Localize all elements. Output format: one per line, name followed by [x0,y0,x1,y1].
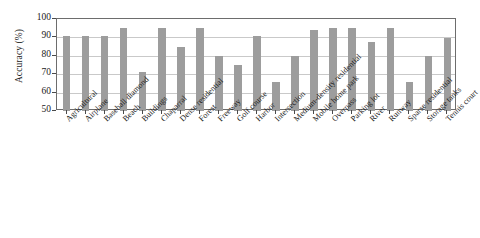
x-axis-tick [123,110,124,114]
bar [101,36,109,111]
x-axis-tick [275,110,276,114]
bar [177,47,185,111]
x-axis-tick [408,110,409,114]
y-axis-tick-label: 60 [21,87,51,97]
bar [120,28,128,111]
bar [253,36,261,111]
x-axis-tick [313,110,314,114]
bar [310,30,318,111]
bar-series [57,19,455,109]
x-axis-tick [180,110,181,114]
x-axis-tick [370,110,371,114]
bar [425,56,433,111]
bar [63,36,71,111]
bar [215,56,223,111]
x-axis-tick [199,110,200,114]
x-axis-tick [85,110,86,114]
y-axis-tick-label: 70 [21,68,51,78]
bar [234,65,242,111]
y-axis-tick [52,110,56,111]
bar [272,82,280,111]
x-axis-tick [218,110,219,114]
bar [387,28,395,111]
bar [291,56,299,111]
x-axis-tick [446,110,447,114]
x-axis-tick [104,110,105,114]
bar [406,82,414,111]
y-axis-tick-label: 80 [21,50,51,60]
plot-area [56,18,456,110]
bar [196,28,204,111]
y-axis-tick-label: 90 [21,31,51,41]
x-axis-tick [256,110,257,114]
x-axis-tick [389,110,390,114]
x-axis-tick [332,110,333,114]
bar [329,28,337,111]
bar [158,28,166,111]
bar [368,42,376,111]
x-axis-tick [161,110,162,114]
x-axis-tick [237,110,238,114]
bar [139,72,147,111]
x-axis-tick [142,110,143,114]
bar [82,36,90,111]
bar [444,38,452,111]
x-axis-tick [66,110,67,114]
y-axis-tick-label: 100 [21,13,51,23]
x-axis-tick [294,110,295,114]
x-axis-tick [427,110,428,114]
bar [348,28,356,111]
y-axis-tick-label: 50 [21,105,51,115]
x-axis-tick [351,110,352,114]
